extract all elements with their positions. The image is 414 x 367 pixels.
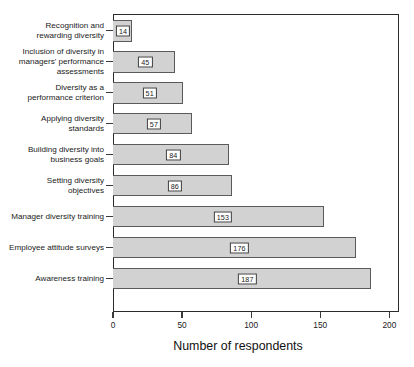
category-label: Building diversity into business goals (0, 145, 104, 165)
bar-row: 187 (113, 268, 371, 290)
bar-value-label: 45 (138, 56, 152, 67)
x-axis-tick (181, 312, 182, 318)
x-axis-tick-label: 200 (382, 320, 396, 330)
category-label: Awareness training (0, 274, 104, 284)
bar-row: 86 (113, 175, 232, 197)
bar-row: 84 (113, 144, 229, 166)
category-tick (106, 247, 113, 248)
x-axis-tick-label: 150 (313, 320, 327, 330)
category-tick (106, 92, 113, 93)
bar-row: 153 (113, 206, 324, 228)
bar-value-label: 153 (214, 211, 232, 222)
category-tick (106, 30, 113, 31)
x-axis-tick (389, 312, 390, 318)
bar-row: 51 (113, 82, 183, 104)
x-axis-title: Number of respondents (0, 339, 414, 353)
x-axis-tick (251, 312, 252, 318)
category-tick (106, 61, 113, 62)
x-axis-tick-label: 0 (111, 320, 116, 330)
x-axis-tick (112, 312, 113, 318)
bar-value-label: 51 (143, 87, 157, 98)
bar-row: 45 (113, 51, 175, 73)
bar-row: 57 (113, 113, 192, 135)
category-label: Recognition and rewarding diversity (0, 21, 104, 41)
category-tick (106, 216, 113, 217)
category-tick (106, 185, 113, 186)
bar-value-label: 84 (166, 149, 180, 160)
bar-value-label: 14 (116, 25, 130, 36)
category-label: Inclusion of diversity in managers' perf… (0, 47, 104, 76)
bar-value-label: 57 (147, 118, 161, 129)
bar-chart: Recognition and rewarding diversityInclu… (0, 0, 414, 367)
x-axis-tick (320, 312, 321, 318)
bar-value-label: 187 (238, 273, 256, 284)
category-label: Manager diversity training (0, 212, 104, 222)
bar-value-label: 176 (230, 242, 248, 253)
category-tick (106, 123, 113, 124)
category-tick (106, 278, 113, 279)
bar-row: 176 (113, 237, 356, 259)
category-label: Diversity as a performance criterion (0, 83, 104, 103)
bar-value-label: 86 (168, 180, 182, 191)
bar-row: 14 (113, 20, 132, 42)
x-axis-tick-label: 100 (244, 320, 258, 330)
category-label: Applying diversity standards (0, 114, 104, 134)
category-label: Setting diversity objectives (0, 176, 104, 196)
category-tick (106, 154, 113, 155)
category-label: Employee attitude surveys (0, 243, 104, 253)
x-axis-tick-label: 50 (177, 320, 186, 330)
